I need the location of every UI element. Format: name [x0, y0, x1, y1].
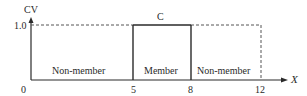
region-label-right: Non-member — [197, 66, 250, 76]
x-axis-label: X — [291, 74, 298, 84]
set-label: C — [157, 12, 164, 22]
y-axis-arrow-icon — [29, 17, 34, 23]
x-tick-8: 8 — [188, 85, 193, 95]
x-tick-12: 12 — [255, 85, 265, 95]
y-axis-label: CV — [24, 5, 38, 15]
y-tick-label: 1.0 — [14, 21, 27, 31]
x-tick-0: 0 — [21, 85, 26, 95]
region-label-left: Non-member — [52, 66, 105, 76]
x-axis-arrow-icon — [281, 78, 288, 83]
x-tick-5: 5 — [131, 85, 136, 95]
region-label-middle: Member — [144, 66, 178, 76]
crisp-set-diagram: CV 1.0 C Non-member Member Non-member 0 … — [0, 0, 307, 96]
diagram-canvas — [0, 0, 307, 96]
